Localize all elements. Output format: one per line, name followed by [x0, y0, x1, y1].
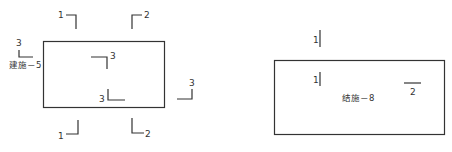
section-mark-1-inside: 1 [313, 72, 320, 86]
section-mark-2-bottom: 2 [132, 118, 151, 139]
section-marks-diagram: 1 2 1 2 3 建施－5 3 3 [0, 0, 452, 152]
section-mark-1-bottom: 1 [58, 120, 78, 141]
svg-text:1: 1 [313, 75, 319, 85]
section-mark-2-inside: 2 [404, 83, 421, 97]
svg-text:2: 2 [144, 10, 150, 20]
section-mark-2-top: 2 [132, 10, 150, 29]
left-plan: 1 2 1 2 3 建施－5 3 3 [9, 10, 195, 141]
svg-text:2: 2 [410, 87, 416, 97]
right-plan: 1 1 结施－8 2 [275, 30, 445, 135]
svg-text:3: 3 [110, 51, 116, 61]
section-mark-1-outside: 1 [313, 30, 320, 47]
svg-text:3: 3 [16, 38, 22, 48]
svg-text:3: 3 [189, 78, 195, 88]
svg-text:1: 1 [58, 131, 64, 141]
section-mark-3-right: 3 [177, 78, 195, 99]
section-mark-1-top: 1 [58, 10, 76, 29]
svg-text:3: 3 [99, 94, 105, 104]
section-mark-3-inside-lower: 3 [99, 89, 125, 104]
sheet-ref-left: 建施－5 [9, 60, 41, 70]
section-mark-3-inside-upper: 3 [91, 51, 116, 69]
sheet-ref-right: 结施－8 [342, 93, 374, 103]
svg-text:1: 1 [58, 10, 64, 20]
svg-text:2: 2 [145, 129, 151, 139]
svg-text:1: 1 [313, 35, 319, 45]
section-mark-3-left: 3 [16, 38, 33, 57]
